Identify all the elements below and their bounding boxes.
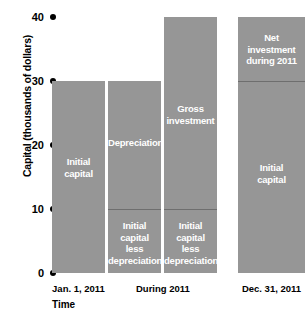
bar-segment-label-initial-capital: Initial capital	[238, 162, 305, 185]
x-axis-label-jan-1-2011: Jan. 1, 2011	[52, 283, 105, 294]
bar-divider-line-10	[164, 209, 217, 210]
x-axis-label-dec-31-2011: Dec. 31, 2011	[238, 283, 305, 294]
bar-depreciation-breakdown: Depreciation Initial capital less deprec…	[108, 81, 161, 273]
bar-final-capital: Net investment during 2011 Initial capit…	[238, 17, 305, 273]
bar-segment-label-initial-capital: Initial capital	[52, 156, 105, 179]
bar-initial-capital: Initial capital	[52, 81, 105, 273]
bar-segment-label-initial-capital-less-depreciation: Initial capital less depreciation	[164, 220, 217, 266]
bar-gross-investment-breakdown: Gross investment Initial capital less de…	[164, 17, 217, 273]
plot-area: Initial capital Depreciation Initial cap…	[0, 0, 307, 314]
bar-divider-line-30	[238, 81, 305, 82]
x-axis-title: Time	[52, 299, 75, 310]
bar-segment-label-depreciation: Depreciation	[108, 137, 161, 149]
bar-segment-label-initial-capital-less-depreciation: Initial capital less depreciation	[108, 220, 161, 266]
capital-accumulation-bar-chart: Capital (thousands of dollars) 40 30 20 …	[0, 0, 307, 314]
bar-segment-label-net-investment: Net investment during 2011	[238, 32, 305, 67]
bar-segment-label-gross-investment: Gross investment	[164, 103, 217, 126]
x-axis-label-during-2011: During 2011	[136, 283, 189, 294]
bar-divider-line-10	[108, 209, 161, 210]
